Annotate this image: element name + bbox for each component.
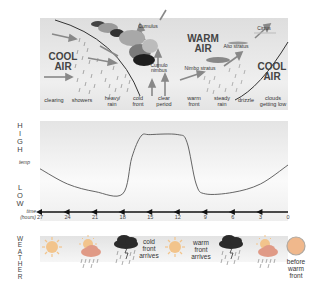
weather-label-warm-front: warm front arrives [186, 239, 216, 260]
weather-icons [0, 0, 332, 282]
sun-icon [42, 237, 62, 257]
weather-label-before-warm-front: before warm front [281, 258, 311, 279]
sun-cloud-rain-icon [256, 235, 278, 268]
sun-icon [165, 237, 185, 257]
sun-cloud-rain-icon [79, 235, 101, 268]
thunderstorm-icon [219, 235, 243, 265]
overcast-disc-icon [287, 237, 305, 255]
weather-label-cold-front: cold front arrives [134, 238, 164, 259]
